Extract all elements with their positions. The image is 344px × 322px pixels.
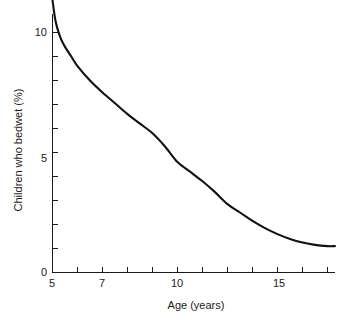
bedwetting-prevalence-chart: 0 5 10 5 7 10 15 Age (years) Children wh…: [0, 0, 344, 322]
y-tick-label-10: 10: [35, 26, 47, 38]
x-tick-label-5: 5: [49, 277, 55, 289]
y-tick-marks: [53, 33, 59, 273]
y-axis-title: Children who bedwet (%): [12, 89, 24, 212]
x-axis-title: Age (years): [168, 299, 225, 311]
y-tick-label-0: 0: [41, 266, 47, 278]
x-tick-label-15: 15: [273, 277, 285, 289]
chart-canvas: 0 5 10 5 7 10 15 Age (years) Children wh…: [0, 0, 344, 322]
x-tick-label-7: 7: [99, 277, 105, 289]
y-tick-label-5: 5: [41, 152, 47, 164]
x-tick-marks: [53, 267, 328, 273]
bedwetting-curve: [53, 0, 336, 246]
x-tick-label-10: 10: [171, 277, 183, 289]
